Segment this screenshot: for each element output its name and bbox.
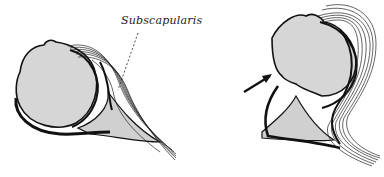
right-panel xyxy=(244,5,380,166)
label-subscapularis: Subscapularis xyxy=(121,14,202,27)
left-panel xyxy=(16,33,176,160)
anatomical-figure: Subscapularis xyxy=(0,0,384,177)
